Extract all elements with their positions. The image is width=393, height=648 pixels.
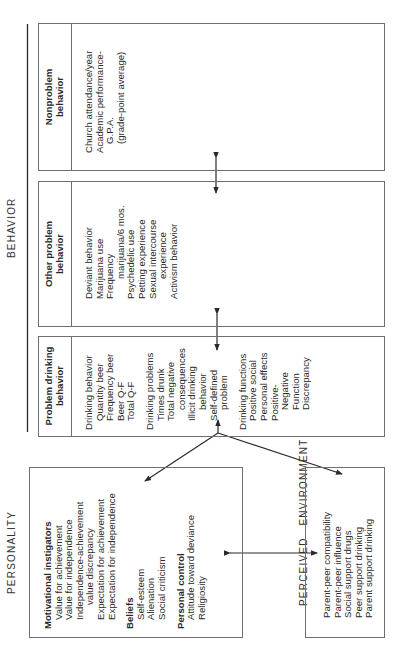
other-problem-header: Other problem behavior <box>44 181 65 327</box>
header-line: Nonproblem <box>44 24 55 170</box>
problem-drinking-items: Drinking behavior Quantity beer Frequenc… <box>84 348 312 430</box>
list-item: Expectation for independence <box>107 493 118 629</box>
list-item: Religiosity <box>197 493 208 629</box>
list-item: Church attendance/year <box>84 51 95 153</box>
header-line: behavior <box>55 336 66 436</box>
list-item: Discrepancy <box>301 348 312 430</box>
header-line: behavior <box>55 24 66 170</box>
list-item: Social criticism <box>157 493 168 629</box>
list-item: Personal effects <box>259 348 270 430</box>
list-item: Parent-peer compatibility <box>322 512 333 618</box>
behavior-title-text: BEHAVIOR <box>6 197 17 258</box>
problem-drinking-header-divider <box>71 336 72 437</box>
list-item: Parent support drinking <box>364 512 375 618</box>
behavior-section-title: BEHAVIOR <box>6 197 17 258</box>
list-item: problem <box>219 348 230 430</box>
nonproblem-items: Church attendance/year Academic performa… <box>84 51 126 153</box>
perceived-environment-items: Parent-peer compatibility Parent-peer in… <box>322 512 375 618</box>
other-problem-header-divider <box>71 181 72 327</box>
personality-title-text: PERSONALITY <box>6 511 17 594</box>
problem-drinking-header: Problem drinking behavior <box>44 336 65 436</box>
other-problem-items: Deviant behavior Marijuana use Frequency… <box>84 205 179 299</box>
list-item: Total Q-F <box>126 348 137 430</box>
nonproblem-header: Nonproblem behavior <box>44 24 65 170</box>
header-line: behavior <box>55 181 66 327</box>
list-item: behavior <box>198 348 209 430</box>
group-title: Drinking problems <box>145 348 156 430</box>
nonproblem-header-divider <box>71 23 72 171</box>
header-line: Problem drinking <box>44 336 55 436</box>
list-item: (grade-point average) <box>116 51 127 153</box>
group-title: Motivational instigators <box>43 493 54 629</box>
list-item: Expectation for achievement <box>96 493 107 629</box>
list-item: Petting experience <box>137 205 148 299</box>
list-item: Deviant behavior <box>84 205 95 299</box>
personality-section-title: PERSONALITY <box>6 511 17 594</box>
group-title: Drinking behavior <box>84 348 95 430</box>
list-item: Activism behavior <box>169 205 180 299</box>
personality-items: Motivational instigators Value for achie… <box>43 493 207 629</box>
header-line: Other problem <box>44 181 55 327</box>
